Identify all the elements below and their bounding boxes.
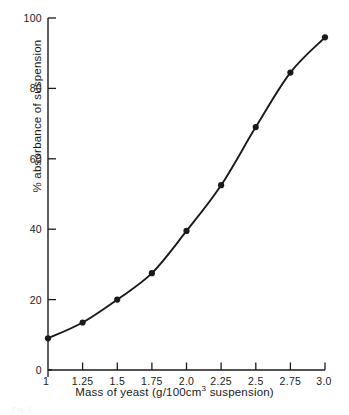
data-point: [183, 228, 189, 234]
x-axis-title-main: Mass of yeast (g/100cm: [75, 386, 201, 398]
data-point: [322, 34, 328, 40]
data-point: [287, 69, 293, 75]
x-tick-label-2p25: 2.25: [210, 376, 232, 387]
caption-sliver: Fig. 1: [12, 405, 192, 413]
x-axis-title-tail: suspension): [206, 386, 274, 398]
x-tick-label-1p5: 1.5: [110, 376, 126, 387]
y-tick-label-20: 20: [4, 294, 42, 305]
data-point: [218, 182, 224, 188]
y-axis-title: % absorbance of suspension: [31, 1, 43, 231]
x-tick-label-2p5: 2.5: [248, 376, 264, 387]
x-axis-title: Mass of yeast (g/100cm3 suspension): [0, 386, 349, 398]
data-curve: [48, 37, 325, 338]
data-point: [114, 297, 120, 303]
axis-lines: [48, 18, 325, 370]
x-tick-label-3p0: 3.0: [316, 376, 332, 387]
y-axis-ticks: [48, 18, 56, 370]
data-point: [45, 335, 51, 341]
plot-area: [0, 0, 349, 415]
data-point: [80, 319, 86, 325]
data-point: [149, 270, 155, 276]
x-tick-label-1p25: 1.25: [72, 376, 94, 387]
x-tick-label-1: 1: [43, 376, 49, 387]
chart-figure: 100 80 60 40 20 0 1 1.25 1.5 1.75 2.0 2.…: [0, 0, 349, 415]
data-point: [253, 124, 259, 130]
x-tick-label-2p75: 2.75: [280, 376, 302, 387]
x-tick-label-1p75: 1.75: [141, 376, 163, 387]
x-tick-label-2p0: 2.0: [179, 376, 195, 387]
y-tick-label-0: 0: [4, 365, 42, 376]
